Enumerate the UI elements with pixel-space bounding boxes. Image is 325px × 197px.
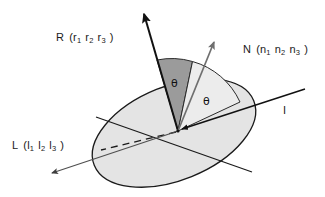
reflection-component-3: r3 [98,31,106,43]
diagram-canvas [0,0,325,197]
reflection-components: (r1r2r3) [69,31,114,43]
normal-components: (n1n2n3) [256,43,308,55]
normal-close-paren: ) [304,43,308,55]
normal-vector-label: N(n1n2n3) [243,44,308,55]
reflection-component-2: r2 [85,31,93,43]
normal-component-3: n3 [289,43,300,55]
reflection-symbol: R [56,31,64,43]
light-component-3: l3 [49,139,56,151]
origin-point [176,129,179,132]
normal-component-1: n1 [260,43,271,55]
incident-ray-label: I [283,105,286,116]
light-component-2: l2 [38,139,45,151]
normal-symbol: N [243,43,251,55]
angle-label-incident: θ [171,78,178,89]
light-vector-label: L(l1l2l3) [12,140,64,151]
reflection-close-paren: ) [110,31,114,43]
light-component-1: l1 [27,139,34,151]
reflection-component-1: r1 [73,31,81,43]
light-close-paren: ) [60,139,64,151]
reflection-diagram-figure: R(r1r2r3) N(n1n2n3) L(l1l2l3) I θ θ [0,0,325,197]
normal-component-2: n2 [275,43,286,55]
light-components: (l1l2l3) [23,139,64,151]
angle-label-reflected: θ [203,96,210,107]
reflection-vector-label: R(r1r2r3) [56,32,114,43]
origin-point-group [176,129,179,132]
light-symbol: L [12,139,18,151]
